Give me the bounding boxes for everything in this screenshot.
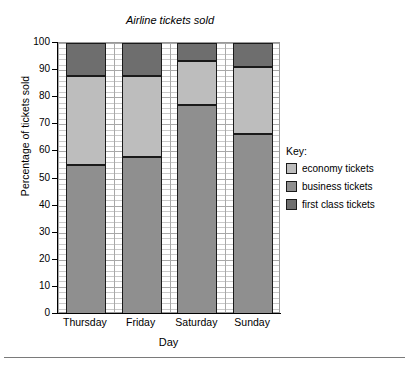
bar-segment-friday-first-class-tickets[interactable] [122, 43, 162, 76]
x-tick-label-sunday: Sunday [212, 316, 292, 328]
legend-item-first-class-tickets[interactable]: first class tickets [286, 199, 406, 210]
bar-segment-friday-business-tickets[interactable] [122, 157, 162, 314]
bar-group-friday[interactable] [122, 43, 162, 312]
y-tick-mark [52, 259, 57, 260]
bar-segment-sunday-business-tickets[interactable] [233, 134, 273, 314]
legend-item-business-tickets[interactable]: business tickets [286, 181, 406, 192]
y-axis-title: Percentage of tickets sold [19, 31, 31, 241]
legend-swatch-icon [286, 163, 297, 174]
chart-title: Airline tickets sold [60, 14, 280, 26]
y-tick-mark [52, 205, 57, 206]
bar-segment-saturday-first-class-tickets[interactable] [177, 43, 217, 61]
bar-segment-sunday-economy-tickets[interactable] [233, 67, 273, 133]
legend-title: Key: [286, 145, 406, 157]
bar-group-thursday[interactable] [66, 43, 106, 312]
bar-segment-sunday-first-class-tickets[interactable] [233, 43, 273, 67]
legend: Key: economy ticketsbusiness ticketsfirs… [286, 145, 406, 217]
y-tick-mark [52, 42, 57, 43]
bar-segment-saturday-economy-tickets[interactable] [177, 61, 217, 106]
legend-label: first class tickets [302, 199, 375, 210]
y-tick-mark [52, 313, 57, 314]
plot-area [57, 42, 280, 313]
legend-item-economy-tickets[interactable]: economy tickets [286, 163, 406, 174]
bar-segment-thursday-first-class-tickets[interactable] [66, 43, 106, 76]
y-tick-mark [52, 232, 57, 233]
bar-segment-friday-economy-tickets[interactable] [122, 76, 162, 157]
y-tick-mark [52, 286, 57, 287]
x-axis-title: Day [57, 336, 280, 348]
legend-label: business tickets [302, 181, 373, 192]
bar-group-saturday[interactable] [177, 43, 217, 312]
y-tick-mark [52, 178, 57, 179]
legend-label: economy tickets [302, 163, 374, 174]
bars-layer [58, 43, 279, 312]
x-axis-line [57, 313, 281, 314]
bar-segment-thursday-business-tickets[interactable] [66, 165, 106, 314]
chart-container: Airline tickets sold 0102030405060708090… [0, 0, 409, 369]
y-tick-mark [52, 69, 57, 70]
y-axis-line [57, 42, 58, 314]
bar-segment-thursday-economy-tickets[interactable] [66, 76, 106, 165]
bar-segment-saturday-business-tickets[interactable] [177, 105, 217, 314]
bar-group-sunday[interactable] [233, 43, 273, 312]
legend-swatch-icon [286, 199, 297, 210]
footer-divider [4, 357, 405, 358]
y-tick-mark [52, 96, 57, 97]
y-tick-mark [52, 150, 57, 151]
legend-swatch-icon [286, 181, 297, 192]
y-tick-label: 10 [22, 281, 50, 291]
y-tick-mark [52, 123, 57, 124]
y-tick-label: 20 [22, 254, 50, 264]
